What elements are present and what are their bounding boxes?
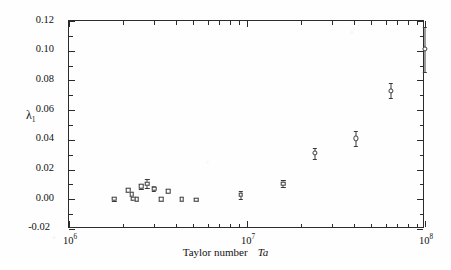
y-axis-tick-major-right — [417, 199, 423, 200]
x-axis-tick-major — [69, 21, 70, 27]
y-tick-label-0: 0.12 — [8, 14, 54, 25]
y-axis-tick-minor-right — [420, 125, 424, 126]
y-tick-label-7: -0.02 — [4, 221, 50, 232]
x-axis-tick-minor — [371, 21, 372, 25]
marker-open-circle — [422, 47, 427, 52]
x-axis-tick-minor — [176, 21, 177, 25]
x-axis-tick-minor — [219, 21, 220, 25]
error-bar-cap-lower — [354, 146, 358, 147]
error-bar-cap-lower — [152, 191, 156, 192]
marker-open-circle — [388, 88, 393, 93]
error-bar-cap-lower — [238, 199, 242, 200]
x-axis-tick-minor — [176, 224, 177, 228]
error-bar-cap-lower — [281, 187, 285, 188]
x-axis-tick-minor — [154, 224, 155, 228]
marker-open-square — [166, 189, 171, 194]
error-bar-cap-lower — [423, 72, 427, 73]
x-axis-tick-major — [247, 21, 248, 27]
x-axis-tick-minor — [208, 21, 209, 25]
y-axis-tick-minor — [69, 125, 73, 126]
x-axis-tick-major — [425, 221, 426, 227]
error-bar-cap-upper — [145, 179, 149, 180]
y-axis-tick-major-right — [417, 110, 423, 111]
y-axis-tick-major — [69, 80, 75, 81]
marker-open-square — [112, 197, 117, 202]
x-axis-tick-minor — [408, 224, 409, 228]
x-axis-tick-minor — [417, 21, 418, 25]
y-axis-tick-minor — [69, 95, 73, 96]
x-axis-tick-minor — [230, 21, 231, 25]
x-axis-tick-minor — [154, 21, 155, 25]
y-tick-label-5: 0.02 — [8, 162, 54, 173]
y-axis-tick-minor-right — [420, 214, 424, 215]
marker-open-square — [194, 197, 199, 202]
x-axis-tick-major — [69, 221, 70, 227]
x-axis-symbol-ta: Ta — [253, 246, 269, 258]
marker-open-square — [238, 193, 243, 198]
y-axis-tick-minor — [69, 66, 73, 67]
marker-open-circle — [312, 151, 317, 156]
x-axis-tick-minor — [386, 224, 387, 228]
error-bar-cap-upper — [423, 27, 427, 28]
y-tick-label-4: 0.04 — [8, 132, 54, 143]
y-axis-tick-minor-right — [420, 66, 424, 67]
x-axis-tick-minor — [417, 224, 418, 228]
y-axis-tick-minor — [69, 214, 73, 215]
marker-open-square — [152, 186, 157, 191]
error-bar-cap-upper — [354, 131, 358, 132]
x-axis-tick-minor — [371, 224, 372, 228]
y-tick-label-3: 0.06 — [8, 103, 54, 114]
y-axis-tick-major-right — [417, 140, 423, 141]
x-axis-tick-minor — [397, 21, 398, 25]
error-bar-cap-upper — [312, 148, 316, 149]
marker-open-circle — [353, 136, 358, 141]
y-axis-tick-major — [69, 199, 75, 200]
marker-open-square — [179, 197, 184, 202]
x-axis-tick-minor — [123, 21, 124, 25]
x-axis-tick-minor — [332, 21, 333, 25]
x-axis-tick-minor — [354, 21, 355, 25]
figure-canvas: λ1 0.12 0.10 0.08 0.06 0.04 0.02 0.00 -0… — [0, 0, 451, 270]
y-axis-tick-major-right — [417, 80, 423, 81]
x-axis-tick-minor — [301, 224, 302, 228]
marker-open-square — [145, 181, 150, 186]
error-bar-cap-upper — [388, 83, 392, 84]
y-axis-tick-major-right — [417, 229, 423, 230]
y-axis-tick-minor-right — [420, 155, 424, 156]
x-axis-tick-minor — [332, 224, 333, 228]
marker-open-square — [281, 181, 286, 186]
x-axis-tick-minor — [239, 224, 240, 228]
x-axis-tick-minor — [208, 224, 209, 228]
x-axis-tick-minor — [397, 224, 398, 228]
x-axis-tick-minor — [230, 224, 231, 228]
x-axis-tick-major — [247, 221, 248, 227]
error-bar-cap-lower — [145, 188, 149, 189]
y-axis-tick-minor — [69, 184, 73, 185]
error-bar-cap-lower — [312, 159, 316, 160]
error-bar-cap-lower — [139, 189, 143, 190]
error-bar-cap-lower — [166, 193, 170, 194]
x-axis-tick-minor — [219, 224, 220, 228]
y-axis-tick-major-right — [417, 170, 423, 171]
x-axis-tick-minor — [354, 224, 355, 228]
marker-open-square — [139, 184, 144, 189]
x-axis-tick-minor — [239, 21, 240, 25]
x-axis-tick-minor — [408, 21, 409, 25]
y-tick-label-1: 0.10 — [8, 43, 54, 54]
y-axis-tick-major — [69, 170, 75, 171]
y-axis-tick-minor-right — [420, 95, 424, 96]
y-axis-tick-major — [69, 110, 75, 111]
plot-frame — [68, 20, 424, 228]
error-bar-cap-lower — [388, 98, 392, 99]
y-tick-label-6: 0.00 — [8, 192, 54, 203]
x-axis-tick-minor — [123, 224, 124, 228]
x-axis-title-text: Taylor number — [183, 246, 248, 258]
y-axis-tick-minor-right — [420, 36, 424, 37]
y-axis-tick-minor — [69, 155, 73, 156]
y-axis-tick-major — [69, 140, 75, 141]
x-axis-title: Taylor numberTa — [0, 246, 451, 258]
y-axis-title-subscript: 1 — [32, 115, 36, 124]
x-axis-tick-minor — [193, 21, 194, 25]
y-tick-label-2: 0.08 — [8, 73, 54, 84]
x-axis-title-symbol — [248, 246, 253, 258]
